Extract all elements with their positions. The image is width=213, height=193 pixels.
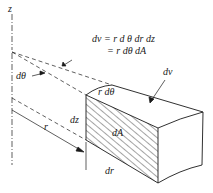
dA-label: dA	[112, 128, 123, 138]
dz-label: dz	[70, 115, 79, 125]
dv-label: dv	[163, 67, 172, 77]
r-label: r	[44, 122, 48, 132]
equation-line-2: = r dθ dA	[107, 46, 146, 56]
r-dtheta-label: r dθ	[98, 87, 114, 97]
cylindrical-volume-element-diagram: z dv = r d θ dr dz = r dθ dA dθ dv r dθ …	[0, 0, 213, 193]
equation-line-1: dv = r d θ dr dz	[92, 34, 155, 44]
dtheta-arrows	[32, 60, 72, 76]
dr-label: dr	[105, 166, 114, 176]
z-axis-label: z	[8, 4, 12, 14]
dtheta-label: dθ	[16, 71, 26, 81]
dA-face	[86, 95, 158, 183]
